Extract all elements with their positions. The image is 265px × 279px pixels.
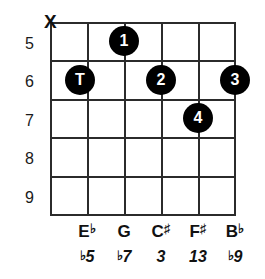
note-letter: G <box>117 222 130 241</box>
finger-dot-3: 3 <box>220 65 250 95</box>
string-line-2 <box>87 22 89 216</box>
note-letter: B <box>226 222 238 241</box>
note-accidental: ♯ <box>164 221 171 236</box>
note-letter: F <box>190 222 200 241</box>
fret-line-2 <box>50 99 236 101</box>
interval-degree: 3 <box>157 248 166 265</box>
interval-degree: 9 <box>234 248 243 265</box>
note-letter: E <box>78 222 89 241</box>
string-line-6 <box>234 22 236 216</box>
finger-dot-thumb: T <box>65 65 95 95</box>
finger-dot-1: 1 <box>109 26 139 56</box>
string-line-4 <box>161 22 163 216</box>
interval-degree: 13 <box>189 248 207 265</box>
chord-diagram: 5 6 7 8 9 X 1 T 2 3 4 E♭ G C♯ F♯ B♭ <box>0 0 265 279</box>
fret-line-1 <box>50 60 236 62</box>
note-label-string-6: B♭ <box>213 222 257 240</box>
note-letter: C <box>152 222 164 241</box>
note-accidental: ♯ <box>200 221 207 236</box>
note-accidental: ♭ <box>238 221 244 236</box>
string-line-1 <box>50 22 52 216</box>
fret-line-bottom <box>50 214 236 216</box>
fret-line-4 <box>50 176 236 178</box>
mute-marker-string-1: X <box>44 12 57 31</box>
fret-line-top <box>50 22 236 24</box>
finger-dot-2: 2 <box>146 65 176 95</box>
fret-line-3 <box>50 137 236 139</box>
note-accidental: ♭ <box>90 221 96 236</box>
interval-degree: 7 <box>123 248 132 265</box>
interval-label-string-6: ♭9 <box>213 249 257 265</box>
finger-dot-4: 4 <box>183 103 213 133</box>
interval-degree: 5 <box>86 248 95 265</box>
